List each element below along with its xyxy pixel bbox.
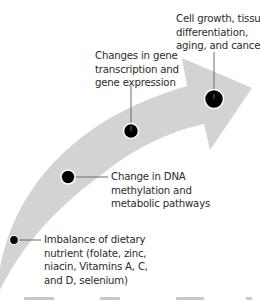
label-stage-2-line-3: metabolic pathways — [111, 197, 210, 211]
label-stage-1: Imbalance of dietary nutrient (folate, z… — [44, 233, 148, 287]
label-stage-1-line-3: niacin, Vitamins A, C, — [44, 260, 148, 274]
cut-off-caption-strip — [24, 297, 254, 301]
label-stage-1-line-4: and D, selenium) — [44, 274, 148, 288]
label-stage-4: Cell growth, tissue differentiation, agi… — [176, 12, 260, 53]
label-stage-3-line-3: gene expression — [95, 76, 179, 90]
label-stage-3-line-1: Changes in gene — [95, 49, 179, 63]
label-stage-2-line-1: Change in DNA — [111, 170, 210, 184]
label-stage-4-line-3: aging, and cancer — [176, 39, 260, 53]
label-stage-2-line-2: methylation and — [111, 184, 210, 198]
diagram-canvas: Cell growth, tissue differentiation, agi… — [0, 0, 260, 301]
label-stage-2: Change in DNA methylation and metabolic … — [111, 170, 210, 211]
dot-stage-2 — [61, 170, 75, 184]
label-stage-3-line-2: transcription and — [95, 63, 179, 77]
label-stage-1-line-2: nutrient (folate, zinc, — [44, 247, 148, 261]
label-stage-1-line-1: Imbalance of dietary — [44, 233, 148, 247]
label-stage-4-line-1: Cell growth, tissue — [176, 12, 260, 26]
dot-stage-1 — [10, 236, 19, 245]
label-stage-4-line-2: differentiation, — [176, 26, 260, 40]
label-stage-3: Changes in gene transcription and gene e… — [95, 49, 179, 90]
